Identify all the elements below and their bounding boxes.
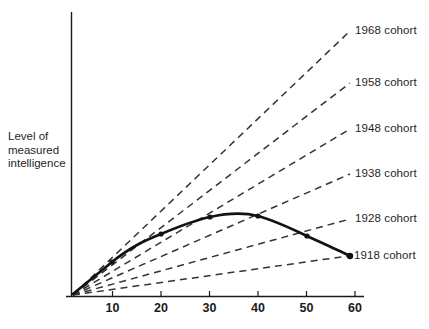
cohort-line-1968 <box>73 31 350 295</box>
cross-sectional-trend-curve <box>73 214 350 294</box>
trend-curve-markers <box>109 213 353 264</box>
cohort-label-1938: 1938 cohort <box>355 167 417 179</box>
x-tick-label-50: 50 <box>300 301 314 315</box>
trend-marker-20 <box>158 231 163 236</box>
trend-marker-30 <box>207 214 212 219</box>
x-axis-tick-labels: 10 20 30 40 50 60 <box>106 301 362 315</box>
cohort-label-1958: 1958 cohort <box>355 76 417 88</box>
x-tick-label-20: 20 <box>154 301 168 315</box>
trend-marker-60 <box>347 253 353 259</box>
cohort-line-1928 <box>73 219 350 295</box>
cohort-line-1958 <box>73 83 350 295</box>
cohort-label-1968: 1968 cohort <box>355 24 417 36</box>
x-tick-label-40: 40 <box>251 301 265 315</box>
trend-marker-40 <box>255 213 260 218</box>
x-tick-label-60: 60 <box>348 301 362 315</box>
intelligence-cohort-figure: Level of measured intelligence 10 20 30 … <box>0 0 429 329</box>
cohort-fan-lines <box>73 31 350 295</box>
trend-marker-50 <box>304 233 309 238</box>
cohort-line-1948 <box>73 129 350 295</box>
cohort-label-1948: 1948 cohort <box>355 122 417 134</box>
cohort-label-1918: 1918 cohort <box>354 249 416 261</box>
trend-marker-10 <box>109 259 114 264</box>
plot-area: 10 20 30 40 50 60 <box>0 0 429 329</box>
x-tick-label-30: 30 <box>203 301 217 315</box>
x-tick-label-10: 10 <box>106 301 120 315</box>
cohort-label-1928: 1928 cohort <box>355 212 417 224</box>
